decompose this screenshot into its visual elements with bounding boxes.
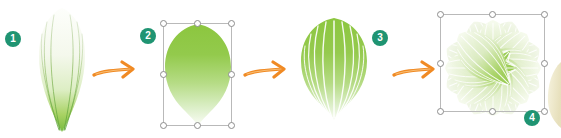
single-narrow-leaf[interactable]: [33, 6, 91, 134]
step-4-group: 4: [420, 0, 561, 138]
resize-handle-se[interactable]: [228, 122, 235, 129]
resize-handle-sw[interactable]: [160, 122, 167, 129]
arrow-step-1-to-2: [92, 60, 138, 84]
resize-handle-ne[interactable]: [541, 11, 548, 18]
step-badge-2: 2: [140, 28, 156, 44]
selection-box-step-2[interactable]: [163, 23, 232, 126]
illustration-canvas: 1: [0, 0, 561, 138]
resize-handle-sw[interactable]: [437, 108, 444, 115]
resize-handle-s[interactable]: [489, 108, 496, 115]
resize-handle-nw[interactable]: [437, 11, 444, 18]
resize-handle-n[interactable]: [194, 20, 201, 27]
resize-handle-w[interactable]: [160, 71, 167, 78]
resize-handle-w[interactable]: [437, 60, 444, 67]
resize-handle-n[interactable]: [489, 11, 496, 18]
resize-handle-nw[interactable]: [160, 20, 167, 27]
adjacent-cream-shape: [546, 62, 561, 128]
veined-green-leaf[interactable]: [296, 14, 372, 124]
resize-handle-s[interactable]: [194, 122, 201, 129]
step-badge-4: 4: [524, 110, 540, 126]
resize-handle-e[interactable]: [228, 71, 235, 78]
step-badge-3: 3: [372, 30, 388, 46]
step-badge-1: 1: [5, 31, 21, 47]
selection-box-step-4[interactable]: [440, 14, 545, 112]
resize-handle-ne[interactable]: [228, 20, 235, 27]
